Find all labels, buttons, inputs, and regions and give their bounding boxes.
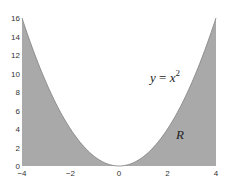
y-tick-label: 10 bbox=[11, 70, 20, 79]
x-tick-label: −2 bbox=[66, 169, 76, 178]
x-tick-label: 4 bbox=[214, 169, 219, 178]
y-axis-ticks: 0246810121416 bbox=[11, 14, 20, 171]
x-tick-label: 2 bbox=[165, 169, 170, 178]
x-axis-ticks: −4−2024 bbox=[17, 169, 218, 178]
curve-label: y = x2 bbox=[148, 68, 180, 85]
y-tick-label: 6 bbox=[16, 107, 21, 116]
x-tick-label: 0 bbox=[117, 169, 122, 178]
y-tick-label: 2 bbox=[16, 144, 21, 153]
y-tick-label: 8 bbox=[16, 88, 21, 97]
region-label: R bbox=[175, 127, 184, 142]
plot-area bbox=[22, 18, 216, 166]
y-tick-label: 16 bbox=[11, 14, 20, 23]
y-tick-label: 12 bbox=[11, 51, 20, 60]
y-tick-label: 14 bbox=[11, 33, 20, 42]
y-tick-label: 4 bbox=[16, 125, 21, 134]
x-tick-label: −4 bbox=[17, 169, 27, 178]
parabola-chart: 0246810121416 −4−2024 y = x2 R bbox=[0, 0, 230, 186]
